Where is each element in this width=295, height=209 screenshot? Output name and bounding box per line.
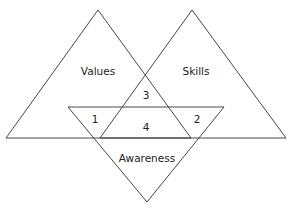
region-3-label: 3 bbox=[143, 89, 150, 101]
region-1-label: 1 bbox=[92, 113, 99, 125]
diagram-canvas: Values Skills Awareness 1 2 3 4 bbox=[0, 0, 295, 209]
region-2-label: 2 bbox=[194, 113, 201, 125]
values-label: Values bbox=[81, 65, 115, 77]
triangle-venn-diagram: Values Skills Awareness 1 2 3 4 bbox=[0, 0, 295, 209]
skills-label: Skills bbox=[183, 65, 210, 77]
region-4-label: 4 bbox=[143, 121, 150, 133]
awareness-label: Awareness bbox=[119, 152, 175, 164]
